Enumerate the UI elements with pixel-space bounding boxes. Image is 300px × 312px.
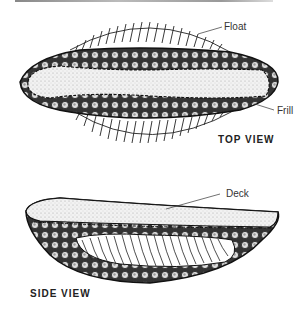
top-view-caption: TOP VIEW <box>218 134 275 145</box>
diagram-canvas <box>0 0 300 312</box>
deck-label: Deck <box>226 188 249 199</box>
top-view-drawing <box>20 22 278 143</box>
frill-label: Frill <box>277 105 293 116</box>
side-view-drawing <box>26 194 279 283</box>
side-view-caption: SIDE VIEW <box>30 288 91 299</box>
float-label: Float <box>224 21 246 32</box>
